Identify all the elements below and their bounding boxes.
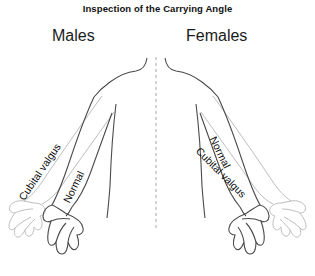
body-diagram (0, 0, 315, 276)
carrying-angle-figure: Inspection of the Carrying Angle Males F… (0, 0, 315, 276)
arm-cubital-valgus-icon-left (9, 96, 114, 237)
arm-normal-icon-right (200, 97, 269, 254)
